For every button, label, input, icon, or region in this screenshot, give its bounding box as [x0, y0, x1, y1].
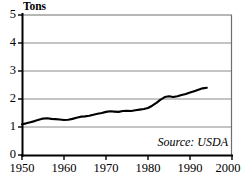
- chart-figure: Tons 5 4 3 2 1 0 1950 1960 1970 1980 199…: [0, 0, 248, 182]
- x-tick-label-1970: 1970: [86, 161, 126, 175]
- y-axis-unit-label: Tons: [23, 0, 46, 13]
- y-axis-ticks: [18, 15, 22, 155]
- x-tick-label-1980: 1980: [128, 161, 168, 175]
- source-annotation: Source: USDA: [157, 135, 228, 150]
- x-tick-label-1990: 1990: [170, 161, 210, 175]
- y-tick-label-2: 2: [2, 92, 16, 105]
- chart-plot-svg: [0, 0, 248, 182]
- y-tick-label-0: 0: [2, 148, 16, 161]
- y-tick-label-4: 4: [2, 36, 16, 49]
- plot-background: [22, 15, 232, 155]
- x-tick-label-2000: 2000: [208, 161, 248, 175]
- y-tick-label-3: 3: [2, 64, 16, 77]
- y-tick-label-5: 5: [2, 8, 16, 21]
- y-tick-label-1: 1: [2, 120, 16, 133]
- x-tick-label-1960: 1960: [44, 161, 84, 175]
- x-tick-label-1950: 1950: [2, 161, 42, 175]
